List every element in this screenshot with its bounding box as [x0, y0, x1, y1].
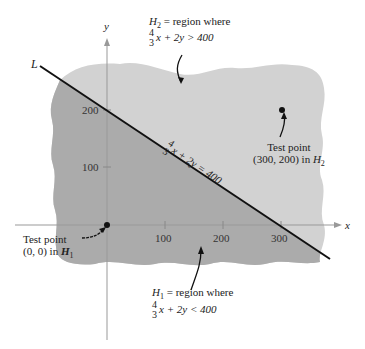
line-L-label: L — [31, 58, 38, 70]
x-axis-arrow-icon — [334, 222, 342, 228]
y-axis-arrow-icon — [104, 38, 110, 46]
test-point-1-label: Test point (0, 0) in H1 — [23, 233, 73, 262]
h2-inequality: 43x + 2y > 400 — [149, 28, 214, 48]
x-axis-label: x — [345, 219, 350, 231]
test-point-2-label: Test point (300, 200) in H2 — [253, 141, 325, 170]
tick-label-x-100: 100 — [155, 232, 172, 244]
tick-label-y-100: 100 — [82, 161, 99, 173]
y-axis-label: y — [104, 20, 109, 32]
tick-label-y-200: 200 — [82, 104, 99, 116]
tick-label-x-300: 300 — [271, 232, 288, 244]
tick-label-x-200: 200 — [213, 232, 230, 244]
test-point-300-200 — [279, 107, 285, 113]
h1-inequality: 43x + 2y < 400 — [152, 300, 217, 320]
test-point-origin — [104, 222, 110, 228]
